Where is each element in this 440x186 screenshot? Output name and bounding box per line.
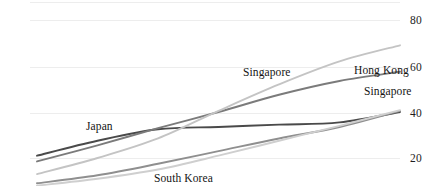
series-line-japan xyxy=(37,112,400,156)
line-chart: 80604020 SingaporeHong KongSingaporeJapa… xyxy=(0,0,440,186)
series-label-hong-kong: Hong Kong xyxy=(354,64,409,76)
y-axis-tick-40: 40 xyxy=(410,107,422,119)
series-label-south-korea: South Korea xyxy=(154,172,213,184)
series-label-japan: Japan xyxy=(86,120,113,132)
y-axis-tick-20: 20 xyxy=(410,152,422,164)
y-axis-tick-60: 60 xyxy=(410,61,422,73)
series-lines xyxy=(37,45,400,185)
series-label-singapore: Singapore xyxy=(364,85,412,97)
series-label-singapore: Singapore xyxy=(243,66,291,78)
y-axis-tick-80: 80 xyxy=(410,14,422,26)
series-line-hong-kong xyxy=(37,72,400,162)
